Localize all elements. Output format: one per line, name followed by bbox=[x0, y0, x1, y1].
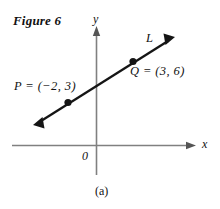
y-axis-label: y bbox=[93, 13, 98, 25]
x-axis bbox=[12, 142, 196, 149]
x-axis-arrowhead-icon bbox=[186, 142, 196, 149]
point-p-label: P = (−2, 3) bbox=[14, 80, 76, 93]
y-axis bbox=[93, 26, 100, 175]
figure-6-container: Figure 6 P = (−2, 3) Q = (3, 6) L y x 0 … bbox=[0, 0, 220, 209]
coordinate-plane-graphic bbox=[0, 0, 220, 209]
y-axis-arrowhead-icon bbox=[93, 26, 100, 36]
subfigure-caption: (a) bbox=[95, 185, 108, 197]
point-p-marker bbox=[64, 99, 71, 106]
line-l-arrowhead-lower-icon bbox=[33, 117, 45, 129]
origin-label: 0 bbox=[82, 150, 88, 162]
line-l-arrowhead-upper-icon bbox=[164, 34, 176, 46]
x-axis-label: x bbox=[202, 138, 207, 150]
figure-title: Figure 6 bbox=[13, 14, 61, 27]
line-name-label: L bbox=[146, 32, 153, 45]
point-q-label: Q = (3, 6) bbox=[130, 65, 185, 78]
